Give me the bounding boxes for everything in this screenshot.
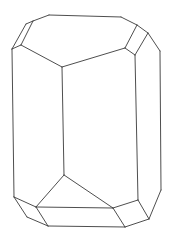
crystal-diagram [0, 0, 173, 238]
crystal-edge [62, 48, 125, 67]
crystal-edge [62, 67, 64, 175]
crystal-edge [160, 51, 161, 190]
crystal-edge [135, 55, 138, 200]
crystal-edge [12, 24, 26, 49]
crystal-edge [125, 219, 149, 227]
crystal-edge [138, 200, 149, 219]
crystal-edge [64, 175, 113, 208]
crystal-edge [113, 208, 125, 227]
crystal-edge [113, 200, 138, 208]
crystal-edge [36, 175, 64, 207]
crystal-edge [149, 190, 161, 219]
crystal-edge [135, 33, 148, 55]
crystal-edge [48, 226, 125, 227]
crystal-edge [21, 45, 62, 67]
crystal-edge [125, 48, 135, 55]
crystal-edge [21, 21, 33, 45]
crystal-edge [137, 25, 148, 33]
crystal-edge [125, 25, 137, 48]
crystal-edge [12, 49, 14, 197]
crystal-edge [148, 33, 160, 51]
crystal-edge [49, 15, 121, 17]
crystal-edge [33, 15, 49, 21]
crystal-edge [36, 207, 113, 208]
crystal-edge [121, 17, 137, 25]
